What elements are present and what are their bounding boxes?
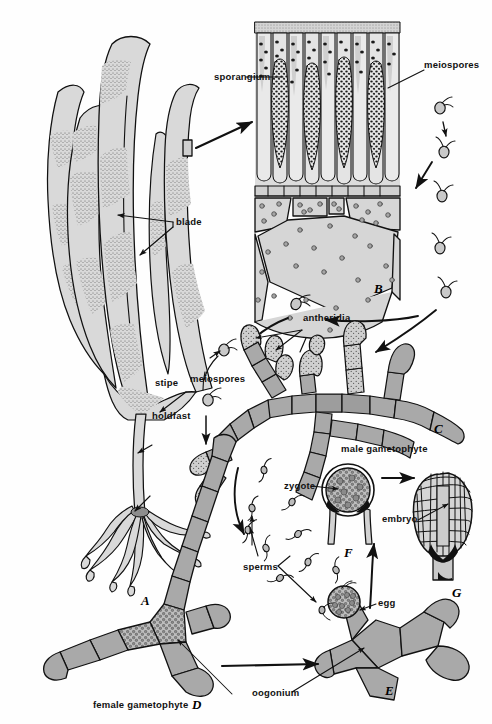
panel-label-f: F [344, 546, 353, 559]
panel-label-e: E [385, 684, 394, 697]
panel-label-b: B [374, 282, 383, 295]
label-sporangium: sporangium [214, 72, 270, 82]
label-holdfast: holdfast [152, 411, 191, 421]
figure-canvas: sporangium meiospores blade stipe holdfa… [0, 0, 492, 724]
label-female-gametophyte: female gametophyte [93, 700, 188, 710]
kelp-life-cycle-illustration [0, 0, 492, 724]
label-antheridia: antheridia [303, 313, 350, 323]
arrow-e-to-f [370, 544, 374, 608]
label-meiospores-left: meiospores [190, 374, 245, 384]
label-blade: blade [176, 217, 202, 227]
label-zygote: zygote [284, 481, 315, 491]
egg-cell [328, 586, 360, 618]
panel-label-g: G [452, 586, 461, 599]
label-egg: egg [378, 598, 396, 608]
label-meiospores-b: meiospores [424, 60, 479, 70]
arrow-c-to-sperms [235, 468, 244, 534]
label-sperms: sperms [243, 562, 278, 572]
panel-g-embryo [413, 472, 472, 580]
panel-f-zygote [322, 464, 374, 544]
panel-label-c: C [434, 422, 443, 435]
egg-leader [360, 604, 376, 610]
sorus-region-marker [183, 140, 192, 156]
magnify-arrow [196, 122, 252, 148]
arrow-d-to-e [222, 664, 318, 666]
label-embryo: embryo [382, 514, 418, 524]
label-stipe: stipe [155, 378, 178, 388]
panel-label-d: D [192, 698, 201, 711]
label-male-gametophyte: male gametophyte [341, 444, 428, 454]
panel-label-a: A [141, 594, 150, 607]
panel-a-sporophyte [47, 37, 212, 597]
label-oogonium: oogonium [252, 688, 300, 698]
panel-b-sorus [255, 22, 400, 352]
